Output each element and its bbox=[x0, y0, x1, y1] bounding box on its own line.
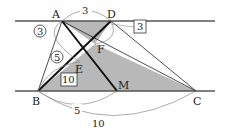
length-label-BC: 10 bbox=[92, 118, 105, 129]
point-label-A: A bbox=[51, 8, 61, 21]
length-label-AD: 3 bbox=[82, 5, 88, 16]
point-label-C: C bbox=[193, 95, 201, 108]
boxed-area-upper-text: 3 bbox=[137, 21, 143, 32]
arc-BC bbox=[38, 91, 196, 116]
circled-ratio-lower-text: 5 bbox=[54, 52, 60, 63]
boxed-area-lower-text: 10 bbox=[62, 74, 75, 85]
geometry-diagram: A D B M C E F 3 5 10 3 5 3 10 bbox=[0, 0, 228, 133]
point-label-F: F bbox=[97, 43, 105, 56]
circled-ratio-upper-text: 3 bbox=[37, 26, 43, 37]
length-label-BM: 5 bbox=[74, 105, 80, 116]
point-label-M: M bbox=[118, 79, 129, 92]
leader-boxed-upper bbox=[111, 24, 134, 27]
arc-BM bbox=[38, 91, 117, 105]
point-label-D: D bbox=[107, 8, 116, 21]
point-label-B: B bbox=[32, 95, 40, 108]
